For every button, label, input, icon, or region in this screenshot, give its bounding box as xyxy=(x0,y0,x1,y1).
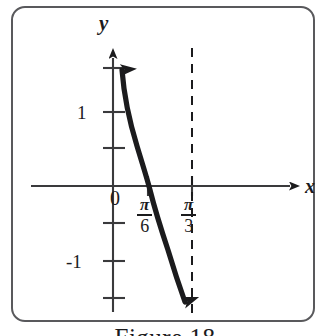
fraction-numerator: π xyxy=(181,196,196,213)
figure-container: y x 1 -1 0 π 6 π 3 Figure 18 xyxy=(0,0,330,336)
fraction-denominator: 3 xyxy=(181,217,196,235)
y-axis-label: y xyxy=(99,13,108,34)
fraction-denominator: 6 xyxy=(137,217,152,235)
x-tick-label-pi-over-3: π 3 xyxy=(181,196,196,236)
plot-canvas xyxy=(0,0,330,336)
y-tick-label-negative-1: -1 xyxy=(66,252,82,271)
x-tick-label-pi-over-6: π 6 xyxy=(137,196,152,236)
x-axis-label: x xyxy=(305,176,315,196)
y-tick-label-1: 1 xyxy=(77,103,87,122)
fraction-numerator: π xyxy=(137,196,152,213)
figure-caption: Figure 18 xyxy=(0,324,330,336)
origin-label: 0 xyxy=(110,188,120,208)
